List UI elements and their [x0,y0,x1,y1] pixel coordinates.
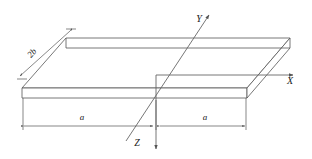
technical-diagram: Y X Z 2b a a [0,0,312,159]
z-axis-label: Z [134,137,140,148]
plate-front-face [22,88,247,98]
width-right-label: a [203,112,208,122]
x-axis-label: X [286,75,294,86]
dimension-widths: a a [23,98,246,130]
width-left-label: a [80,112,85,122]
depth-dimension-label: 2b [25,46,39,60]
y-axis-label: Y [196,13,203,24]
diagram-canvas: Y X Z 2b a a [0,0,312,159]
